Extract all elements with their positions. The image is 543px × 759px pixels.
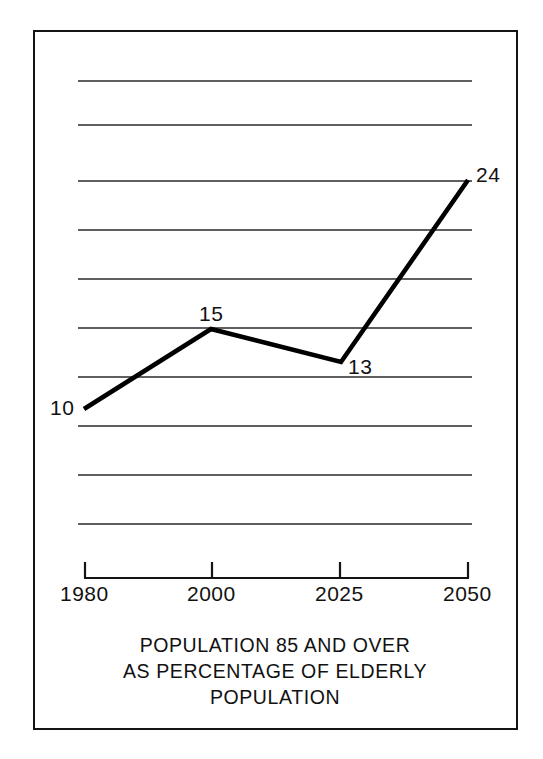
caption-line-1: POPULATION 85 AND OVER	[45, 632, 505, 658]
caption-line-2: AS PERCENTAGE OF ELDERLY	[45, 658, 505, 684]
figure-root: 10 15 13 24 1980 2000 2025 2050 POPULATI…	[0, 0, 543, 759]
data-label-2025: 13	[348, 355, 372, 379]
x-tick-label-2025: 2025	[315, 582, 364, 606]
x-tick-label-1980: 1980	[60, 582, 109, 606]
figure-border-frame	[33, 30, 518, 730]
data-label-2050: 24	[476, 163, 500, 187]
caption-line-3: POPULATION	[45, 684, 505, 710]
data-label-1980: 10	[50, 396, 74, 420]
x-tick-label-2050: 2050	[443, 582, 492, 606]
data-label-2000: 15	[199, 302, 223, 326]
chart-caption: POPULATION 85 AND OVER AS PERCENTAGE OF …	[45, 632, 505, 710]
x-tick-label-2000: 2000	[187, 582, 236, 606]
